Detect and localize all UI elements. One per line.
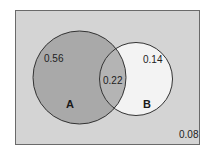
intersection-value: 0.22 [103,75,123,86]
set-b-label: B [143,98,151,110]
outside-value: 0.08 [179,129,199,140]
set-a-only-value: 0.56 [44,53,64,64]
set-b-only-value: 0.14 [143,54,163,65]
set-a-label: A [66,98,74,110]
venn-diagram: 0.56 0.22 0.14 0.08 A B [0,0,212,155]
